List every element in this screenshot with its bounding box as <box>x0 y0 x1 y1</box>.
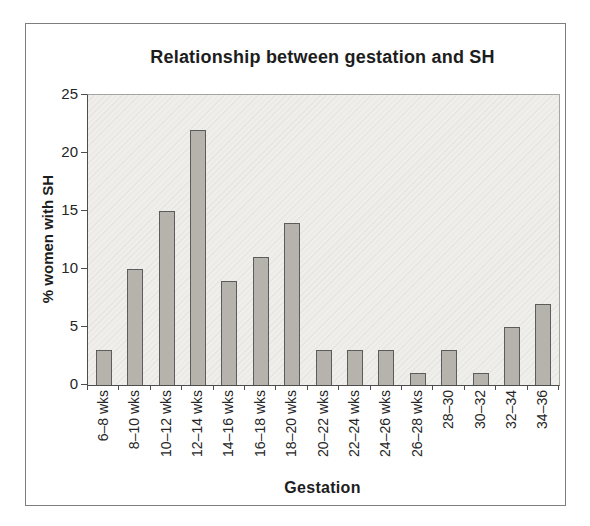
y-tick-label: 25 <box>26 86 78 102</box>
chart-title: Relationship between gestation and SH <box>87 47 558 68</box>
x-tick-label: 12–14 wks <box>189 390 205 476</box>
bar-30-32 <box>473 373 489 385</box>
bar-18-20-wks <box>284 223 300 385</box>
y-axis-title: % women with SH <box>39 169 57 309</box>
x-tick-label: 24–26 wks <box>377 390 393 476</box>
x-tick-label: 20–22 wks <box>315 390 331 476</box>
y-tick-mark <box>81 326 87 327</box>
scanned-chart-page: { "chart_data": { "type": "bar", "title"… <box>0 0 590 526</box>
x-tick-label: 6–8 wks <box>95 390 111 476</box>
x-tick-mark <box>464 385 465 390</box>
x-axis-title: Gestation <box>87 479 558 497</box>
x-tick-mark <box>338 385 339 390</box>
bar-24-26-wks <box>378 350 394 385</box>
x-tick-mark <box>87 385 88 390</box>
x-tick-mark <box>432 385 433 390</box>
bar-20-22-wks <box>316 350 332 385</box>
x-tick-label: 26–28 wks <box>409 390 425 476</box>
bar-16-18-wks <box>253 257 269 385</box>
bar-8-10-wks <box>127 269 143 385</box>
x-tick-mark <box>181 385 182 390</box>
x-tick-label: 14–16 wks <box>220 390 236 476</box>
x-tick-mark <box>244 385 245 390</box>
x-tick-mark <box>118 385 119 390</box>
x-tick-label: 28–30 <box>440 390 456 476</box>
x-tick-label: 16–18 wks <box>252 390 268 476</box>
y-tick-mark <box>81 94 87 95</box>
x-tick-mark <box>150 385 151 390</box>
x-tick-label: 8–10 wks <box>126 390 142 476</box>
figure-frame: Relationship between gestation and SH % … <box>25 23 566 506</box>
x-tick-label: 18–20 wks <box>283 390 299 476</box>
x-tick-label: 10–12 wks <box>158 390 174 476</box>
x-tick-mark <box>275 385 276 390</box>
x-tick-mark <box>558 385 559 390</box>
x-tick-label: 30–32 <box>472 390 488 476</box>
x-tick-mark <box>401 385 402 390</box>
bar-34-36 <box>535 304 551 385</box>
bar-14-16-wks <box>221 281 237 385</box>
x-tick-mark <box>307 385 308 390</box>
y-tick-label: 5 <box>26 318 78 334</box>
x-tick-label: 22–24 wks <box>346 390 362 476</box>
y-tick-mark <box>81 268 87 269</box>
bar-22-24-wks <box>347 350 363 385</box>
bar-6-8-wks <box>96 350 112 385</box>
x-tick-mark <box>495 385 496 390</box>
x-tick-mark <box>527 385 528 390</box>
bar-10-12-wks <box>159 211 175 385</box>
x-tick-label: 34–36 <box>534 390 550 476</box>
x-tick-mark <box>213 385 214 390</box>
bar-32-34 <box>504 327 520 385</box>
x-tick-mark <box>370 385 371 390</box>
y-tick-label: 15 <box>26 202 78 218</box>
y-tick-label: 10 <box>26 260 78 276</box>
x-tick-label: 32–34 <box>503 390 519 476</box>
bar-12-14-wks <box>190 130 206 385</box>
bar-28-30 <box>441 350 457 385</box>
y-tick-mark <box>81 210 87 211</box>
y-tick-label: 0 <box>26 376 78 392</box>
bar-26-28-wks <box>410 373 426 385</box>
plot-area <box>87 94 560 386</box>
y-tick-mark <box>81 152 87 153</box>
y-tick-label: 20 <box>26 144 78 160</box>
